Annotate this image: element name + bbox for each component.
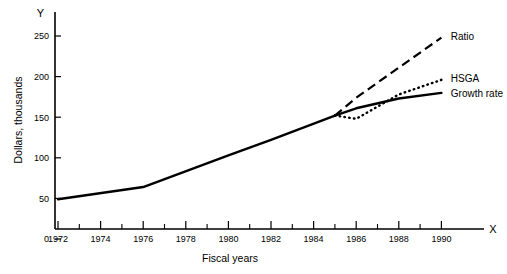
series-label-growth-rate: Growth rate: [451, 88, 504, 99]
y-tick-label: 50: [39, 194, 49, 204]
y-tick-label: 200: [34, 72, 49, 82]
y-axis-letter: Y: [37, 7, 45, 19]
x-axis-title: Fiscal years: [202, 252, 258, 264]
y-axis-tick-labels: 050100150200250: [34, 31, 49, 244]
series-line-hsga: [335, 80, 442, 119]
y-axis-ticks: [55, 36, 61, 239]
x-tick-label: 1986: [346, 234, 366, 244]
x-axis-tick-labels: 1972197419761978198019821984198619881990: [48, 234, 451, 244]
line-chart: 050100150200250 197219741976197819801982…: [0, 0, 507, 274]
y-axis-title: Dollars, thousands: [12, 77, 24, 164]
x-tick-label: 1982: [261, 234, 281, 244]
series-line-common-trunk: [58, 116, 335, 200]
y-tick-label: 100: [34, 153, 49, 163]
series-label-hsga: HSGA: [451, 73, 480, 84]
x-axis-letter: X: [489, 223, 497, 235]
series-annotations: RatioHSGAGrowth rate: [451, 31, 504, 99]
chart-container: 050100150200250 197219741976197819801982…: [0, 0, 507, 274]
series-label-ratio: Ratio: [451, 31, 475, 42]
x-tick-label: 1978: [176, 234, 196, 244]
y-tick-label: 150: [34, 113, 49, 123]
x-tick-label: 1990: [431, 234, 451, 244]
series-line-growth-rate: [335, 93, 442, 116]
x-tick-label: 1984: [304, 234, 324, 244]
y-tick-label: 250: [34, 31, 49, 41]
x-tick-label: 1972: [48, 234, 68, 244]
x-tick-label: 1988: [389, 234, 409, 244]
x-tick-label: 1974: [91, 234, 111, 244]
series-paths: [58, 38, 441, 200]
x-tick-label: 1976: [133, 234, 153, 244]
x-tick-label: 1980: [218, 234, 238, 244]
series-line-ratio: [335, 38, 442, 116]
